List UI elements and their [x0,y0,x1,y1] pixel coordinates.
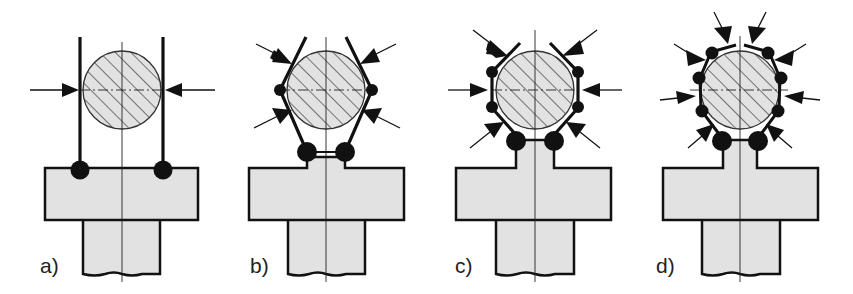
joint-dot [274,84,286,96]
force-arrow-icon [774,44,806,66]
force-arrow-icon [256,44,292,64]
panel-a: a) [30,37,215,282]
joint-dot [696,105,709,118]
panel-label: d) [656,254,675,277]
joint-dot [71,161,90,180]
force-arrow-icon [470,122,504,148]
force-arrow-icon [360,44,396,64]
base-block [663,140,818,220]
force-arrow-icon [562,30,597,56]
base-stem [288,220,365,276]
joint-dot [772,105,785,118]
force-arrow-icon [660,91,696,104]
base-stem [702,220,780,276]
panel-label: c) [455,254,473,277]
force-arrow-icon [254,108,292,128]
force-arrow-icon [30,83,79,97]
base-block [456,140,611,220]
force-arrow-icon [714,12,732,44]
joint-dot [712,131,732,151]
joint-dot [297,142,317,162]
joint-dot [486,101,498,113]
base-block [45,168,198,220]
joint-dot [775,72,788,85]
joint-dot [572,101,584,113]
joint-dot [335,142,355,162]
joint-dot [506,131,526,151]
joint-dot [762,47,775,60]
joint-dot [486,66,498,78]
gripper-diagram: a) b) [0,0,853,294]
force-arrow-icon [688,124,714,148]
force-arrow-icon [674,44,706,66]
force-arrow-icon [566,122,600,148]
joint-dot [706,47,719,60]
panel-d: d) [656,12,820,282]
joint-dot [748,131,768,151]
panel-b: b) [249,37,404,282]
force-arrow-icon [448,83,488,97]
joint-dot [572,66,584,78]
joint-dot [544,131,564,151]
base-block [249,157,404,220]
force-arrow-icon [362,108,400,128]
panel-label: a) [40,254,59,277]
panel-c: c) [448,30,622,282]
force-arrow-icon [165,83,215,97]
force-arrow-icon [784,91,820,104]
joint-dot [366,84,378,96]
force-arrow-icon [748,12,766,44]
joint-dot [693,72,706,85]
force-arrow-icon [582,83,622,97]
force-arrow-icon [473,30,508,58]
force-arrow-icon [766,124,792,148]
panel-label: b) [250,254,269,277]
base-stem [83,220,160,276]
joint-dot [154,161,173,180]
